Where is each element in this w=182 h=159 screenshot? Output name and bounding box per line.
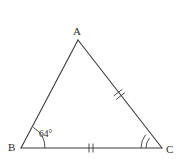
vertex-label-c: C xyxy=(166,144,173,155)
vertex-label-a: A xyxy=(73,26,81,37)
vertex-label-b: B xyxy=(8,142,15,153)
angle-arc-c xyxy=(141,135,150,148)
geometry-figure: A B C 64° xyxy=(0,0,182,159)
triangle-diagram xyxy=(0,0,182,159)
angle-measure-label-b: 64° xyxy=(39,130,52,140)
side-AC xyxy=(78,40,162,148)
